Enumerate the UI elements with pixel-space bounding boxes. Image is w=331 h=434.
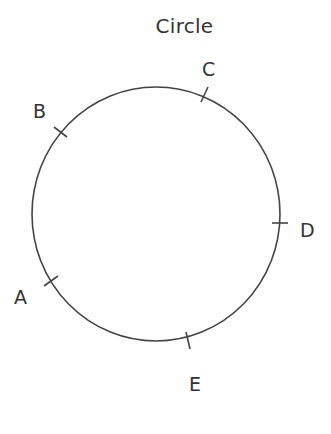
- tick-mark-a: [44, 276, 58, 286]
- tick-mark-e: [186, 332, 190, 349]
- point-label-a: A: [14, 288, 27, 307]
- circle-diagram: Circle A B C D E: [0, 0, 331, 434]
- point-label-e: E: [189, 375, 201, 394]
- circle-figure: [0, 0, 331, 434]
- circle-outline: [32, 87, 280, 341]
- point-label-d: D: [300, 221, 315, 240]
- tick-mark-c: [201, 87, 208, 102]
- point-label-c: C: [202, 60, 215, 79]
- point-label-b: B: [33, 102, 46, 121]
